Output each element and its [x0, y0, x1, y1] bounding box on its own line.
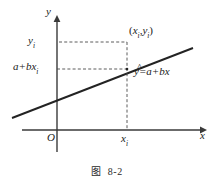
regression-line	[12, 48, 193, 118]
caption-number: 8-2	[108, 166, 123, 177]
x-tick-label-xi: xi	[121, 133, 128, 147]
y-axis-arrow-icon	[54, 15, 61, 22]
x-axis-label: x	[200, 130, 205, 141]
y-tick-label-yi: yi	[28, 35, 35, 49]
regression-plot	[0, 0, 214, 186]
caption-prefix: 图	[91, 166, 102, 177]
y-tick-label-fitted: a+bxi	[13, 61, 38, 75]
y-hat-accent-icon: ^	[137, 62, 142, 73]
figure-container: y x O yi a+bxi xi (xi,yi) y=a+bx ^ 图8-2	[0, 0, 214, 186]
y-axis-label: y	[46, 6, 51, 17]
origin-label: O	[47, 132, 55, 143]
fitted-point-marker	[126, 68, 129, 71]
figure-caption: 图8-2	[0, 163, 214, 178]
observed-point-label: (xi,yi)	[129, 25, 153, 39]
